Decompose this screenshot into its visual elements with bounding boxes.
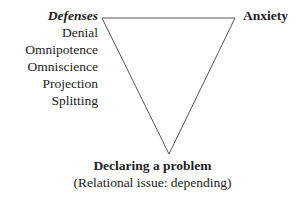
bottom-vertex: Declaring a problem (Relational issue: d…: [0, 157, 305, 191]
defense-item: Omniscience: [25, 58, 98, 75]
defenses-list: Defenses Denial Omnipotence Omniscience …: [25, 7, 98, 109]
inverted-triangle: [102, 18, 235, 154]
defense-item: Splitting: [25, 92, 98, 109]
defenses-heading: Defenses: [25, 7, 98, 24]
defense-item: Denial: [25, 24, 98, 41]
relational-issue-label: (Relational issue: depending): [0, 174, 305, 191]
defense-item: Omnipotence: [25, 41, 98, 58]
anxiety-label: Anxiety: [243, 7, 288, 24]
defense-item: Projection: [25, 75, 98, 92]
declaring-problem-label: Declaring a problem: [0, 157, 305, 174]
